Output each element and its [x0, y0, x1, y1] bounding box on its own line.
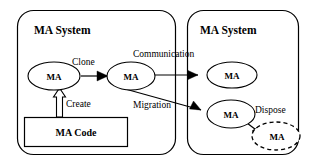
node-ma-clone: MA	[107, 62, 155, 90]
node-ma-clone-label: MA	[124, 72, 139, 82]
node-ma-remote-top-label: MA	[225, 71, 240, 81]
edge-clone-label: Clone	[72, 57, 95, 67]
panel-right-title: MA System	[200, 24, 257, 37]
edge-dispose-label: Dispose	[255, 105, 286, 115]
panel-left-title: MA System	[34, 24, 91, 37]
node-ma-disposed-label: MA	[270, 132, 285, 142]
node-ma-remote-top: MA	[207, 62, 257, 88]
diagram-canvas: MA System MA System MA	[0, 0, 313, 165]
ma-system-diagram: MA System MA System MA	[0, 0, 313, 165]
node-ma-origin-label: MA	[47, 72, 62, 82]
edge-clone	[81, 71, 108, 81]
edge-create-block-arrow	[54, 88, 66, 117]
edge-create-label: Create	[66, 99, 91, 109]
edge-clone-arrowhead	[97, 71, 108, 81]
edge-create	[54, 88, 66, 117]
edge-migration-arrowhead	[190, 101, 202, 110]
edge-communication-label: Communication	[133, 49, 194, 59]
node-ma-code: MA Code	[25, 118, 128, 147]
node-ma-remote-bottom: MA	[207, 100, 255, 128]
node-ma-disposed: MA	[252, 122, 300, 150]
edge-communication-arrowhead	[188, 71, 198, 80]
node-ma-remote-bottom-label: MA	[224, 110, 239, 120]
edge-migration-label: Migration	[133, 100, 171, 110]
node-ma-code-label: MA Code	[56, 127, 97, 138]
